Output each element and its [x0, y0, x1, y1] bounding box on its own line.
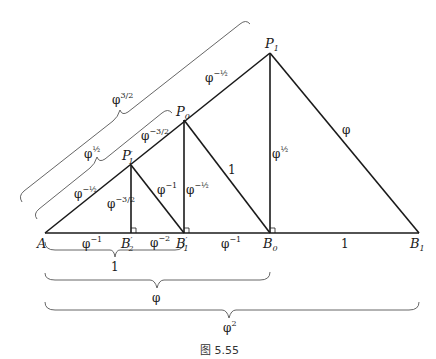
point-label-P1p: P′1: [121, 148, 134, 166]
point-label-B2p: B′2: [120, 235, 133, 253]
point-label-P1: P1: [264, 36, 279, 53]
point-label-B0: B0: [262, 236, 278, 253]
label-P1p-P0: φ−3/2: [141, 127, 169, 143]
braces: [20, 22, 419, 319]
label-brace-A-P1: φ3/2: [112, 91, 133, 107]
brace-A-P1: [20, 22, 250, 203]
brace-A-B1: [45, 302, 419, 318]
geometry-figure: A B′2 B′1 B0 B1 P′1 P0 P1 φ−1 φ−2 φ−1 1 …: [0, 0, 436, 359]
label-B0-B1: 1: [341, 237, 349, 251]
brace-A-B0: [45, 272, 270, 288]
point-label-B1p: B′1: [175, 235, 188, 253]
segment-P0-B0: [184, 120, 270, 233]
segment-P1p-B1p: [131, 165, 184, 233]
label-P1-B1: φ: [342, 123, 350, 137]
point-label-B1: B1: [409, 236, 425, 253]
label-P1-B0: φ½: [272, 145, 288, 161]
label-P0-B0: 1: [228, 163, 236, 177]
point-label-A: A: [36, 236, 46, 251]
brace-A-B1p: [45, 242, 184, 257]
side-P1-B1: [270, 53, 419, 233]
figure-caption: 图 5.55: [200, 344, 239, 357]
label-B2p-B1p: φ−2: [150, 234, 170, 250]
point-label-P0: P0: [175, 104, 190, 121]
figure-lines: [45, 53, 419, 233]
label-P0-B1p: φ−½: [186, 181, 209, 197]
hypotenuse-A-P1: [45, 53, 270, 233]
label-A-P1p: φ−½: [74, 185, 97, 201]
label-A-B2p: φ−1: [82, 235, 102, 251]
label-B1p-B0: φ−1: [221, 235, 241, 251]
label-brace-A-B1p: 1: [111, 260, 119, 274]
label-P0-P1: φ−½: [205, 69, 228, 85]
label-brace-A-B0: φ: [152, 291, 160, 305]
label-P1p-B1p: φ−1: [157, 181, 177, 197]
label-brace-A-B1: φ2: [223, 319, 237, 335]
